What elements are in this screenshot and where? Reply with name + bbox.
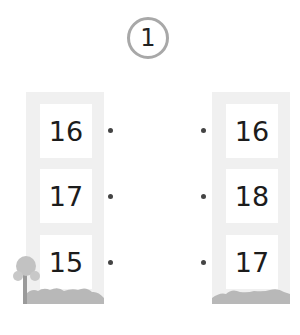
right-dot-3[interactable]	[201, 260, 206, 265]
right-box-2: 18	[226, 169, 278, 223]
right-dot-1[interactable]	[201, 128, 206, 133]
tree-icon	[10, 252, 44, 304]
left-value-3: 15	[49, 247, 83, 278]
question-number: 1	[140, 24, 155, 52]
right-value-1: 16	[235, 116, 269, 147]
left-box-3: 15	[40, 235, 92, 289]
left-value-2: 17	[49, 181, 83, 212]
left-box-1: 16	[40, 104, 92, 158]
right-ground-bush-icon	[212, 286, 290, 304]
right-value-3: 17	[235, 247, 269, 278]
right-box-3: 17	[226, 235, 278, 289]
right-tower: 16 18 17	[212, 92, 290, 304]
question-number-badge: 1	[127, 17, 169, 59]
left-dot-2[interactable]	[108, 194, 113, 199]
left-dot-1[interactable]	[108, 128, 113, 133]
right-value-2: 18	[235, 181, 269, 212]
right-box-1: 16	[226, 104, 278, 158]
left-value-1: 16	[49, 116, 83, 147]
left-box-2: 17	[40, 169, 92, 223]
left-dot-3[interactable]	[108, 260, 113, 265]
right-dot-2[interactable]	[201, 194, 206, 199]
